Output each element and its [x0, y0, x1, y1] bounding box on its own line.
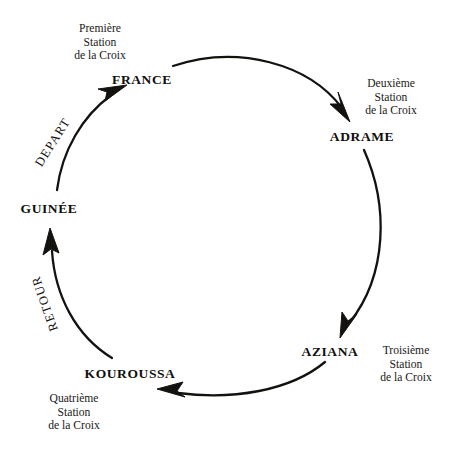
arrow-aziana-kouroussa-head [157, 382, 185, 397]
station-label-premiere-line-2: Station [40, 36, 160, 50]
node-label-france[interactable]: FRANCE [92, 73, 192, 87]
station-label-troisieme-line-1: Troisième [348, 344, 453, 358]
station-label-deuxieme-line-1: Deuxième [331, 77, 451, 91]
station-label-deuxieme: Deuxième Station de la Croix [331, 77, 451, 118]
arrow-france-adrame [173, 57, 350, 122]
cycle-diagram: FRANCE ADRAME AZIANA KOUROUSSA GUINÉE Pr… [0, 0, 453, 450]
station-label-troisieme-line-3: de la Croix [348, 371, 453, 385]
station-label-deuxieme-line-2: Station [331, 91, 451, 105]
arrow-guinee-france-head [98, 85, 127, 101]
station-label-deuxieme-line-3: de la Croix [331, 104, 451, 118]
station-label-premiere: Première Station de la Croix [40, 22, 160, 63]
station-label-quatrieme-line-3: de la Croix [14, 419, 134, 433]
station-label-premiere-line-3: de la Croix [40, 49, 160, 63]
arrow-adrame-aziana [340, 150, 381, 338]
arrow-guinee-france [57, 85, 127, 190]
station-label-troisieme-line-2: Station [348, 358, 453, 372]
station-label-quatrieme-line-1: Quatrième [14, 392, 134, 406]
arrow-adrame-aziana-head [340, 312, 357, 338]
node-label-guinee[interactable]: GUINÉE [4, 202, 94, 216]
node-label-kouroussa[interactable]: KOUROUSSA [60, 367, 200, 381]
arrow-adrame-aziana-path [350, 150, 381, 322]
station-label-quatrieme-line-2: Station [14, 406, 134, 420]
station-label-troisieme: Troisième Station de la Croix [348, 344, 453, 385]
station-label-quatrieme: Quatrième Station de la Croix [14, 392, 134, 433]
arrow-aziana-kouroussa-path [178, 362, 325, 395]
arrow-kouroussa-guinee-path [52, 251, 112, 358]
station-label-premiere-line-1: Première [40, 22, 160, 36]
arrow-france-adrame-path [173, 57, 342, 108]
node-label-adrame[interactable]: ADRAME [312, 130, 412, 144]
